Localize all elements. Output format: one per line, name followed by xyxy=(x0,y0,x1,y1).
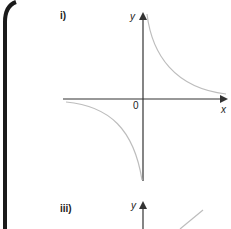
origin-label: 0 xyxy=(133,100,139,111)
y-axis-label: y xyxy=(129,11,136,22)
x-axis-label: x xyxy=(220,104,227,115)
panel-border xyxy=(5,2,16,229)
curve-branch-q1 xyxy=(147,14,226,94)
y-axis-label-iii: y xyxy=(130,200,137,211)
graph-i: i) y x 0 xyxy=(60,10,227,181)
graph-i-label: i) xyxy=(60,10,66,21)
line-iii xyxy=(180,210,203,229)
graph-iii-label: iii) xyxy=(60,203,72,214)
graph-iii: iii) y xyxy=(60,200,203,229)
curve-branch-q3 xyxy=(66,102,142,180)
graphs-diagram: i) y x 0 iii) y xyxy=(0,0,231,229)
